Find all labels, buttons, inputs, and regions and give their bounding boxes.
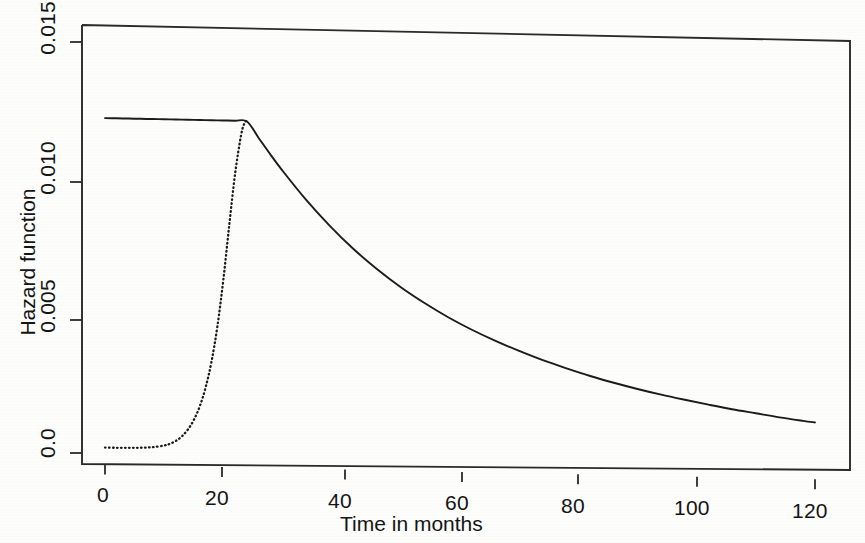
y-axis-title: Hazard function [16,172,40,352]
hazard-function-figure: 0 20 40 60 80 100 120 0.015 0.010 0.005 … [0,0,865,543]
xtick-label-0: 0 [97,483,109,507]
xtick-label-100: 100 [674,496,710,520]
ytick-label-0.0: 0.0 [36,423,60,463]
y-axis-ticks [70,42,82,453]
data-series-layer [105,118,815,448]
x-axis-title: Time in months [340,512,483,536]
xtick-label-40: 40 [328,489,352,513]
series-dotted-hazard [105,121,249,448]
chart-canvas [0,0,865,543]
xtick-label-120: 120 [792,499,828,523]
plot-frame [82,25,850,470]
xtick-label-80: 80 [561,494,585,518]
xtick-label-20: 20 [205,486,229,510]
ytick-label-0.015: 0.015 [36,0,60,58]
series-solid-hazard [105,118,815,422]
